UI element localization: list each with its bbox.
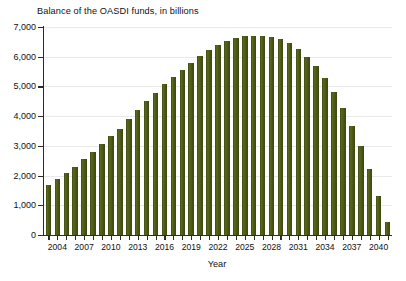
bar [349,126,355,235]
x-axis-tick [236,236,237,240]
bar [64,173,70,235]
bar [55,179,61,235]
bar [331,92,337,235]
bar [340,108,346,235]
x-axis-tick-label: 2013 [128,242,147,252]
x-axis-tick [361,236,362,240]
x-axis-tick [164,236,165,240]
bar [287,43,293,235]
x-axis-tick [111,236,112,240]
x-axis-tick-label: 2028 [262,242,281,252]
bar [304,57,310,235]
x-axis-tick [156,236,157,240]
bar [99,144,105,235]
x-axis-tick-label: 2007 [75,242,94,252]
bar [313,66,319,235]
x-axis-tick [325,236,326,240]
y-axis-tick-label: 5,000 [13,81,36,91]
x-axis-tick [138,236,139,240]
plot-area [44,27,392,235]
x-axis-tick-label: 2019 [182,242,201,252]
y-axis-tick [38,57,44,58]
bar [385,222,391,235]
x-axis-tick [343,236,344,240]
y-axis-tick-label: 4,000 [13,111,36,121]
x-axis-tick [370,236,371,240]
y-axis-tick-label: 1,000 [13,200,36,210]
chart-figure: Balance of the OASDI funds, in billions … [0,0,406,281]
x-axis-tick [182,236,183,240]
x-axis-tick-label: 2037 [342,242,361,252]
x-axis-tick [227,236,228,240]
x-axis-tick [316,236,317,240]
bar [117,129,123,235]
x-axis-title-label: Year [208,259,227,269]
bar [260,36,266,235]
y-axis-tick-label: 2,000 [13,171,36,181]
y-axis-tick [38,116,44,117]
x-axis-tick [280,236,281,240]
x-axis-tick [334,236,335,240]
bar [171,77,177,235]
bar [188,63,194,235]
bar [376,196,382,235]
x-axis-tick [57,236,58,240]
x-axis-tick-label: 2010 [101,242,120,252]
bar [197,56,203,235]
y-axis-tick [38,146,44,147]
x-axis-tick [352,236,353,240]
y-axis-tick-label: 0 [31,230,36,240]
x-axis-tick-label: 2025 [235,242,254,252]
x-axis-tick [66,236,67,240]
x-axis-tick [245,236,246,240]
bar [144,101,150,235]
y-axis-tick [38,176,44,177]
bar [206,50,212,235]
y-axis-tick [38,235,44,236]
bar [278,39,284,235]
y-axis-tick-label: 3,000 [13,141,36,151]
bar [358,146,364,235]
x-axis-tick [48,236,49,240]
bar [81,159,87,235]
x-axis-tick [129,236,130,240]
x-axis-tick [218,236,219,240]
x-axis-tick-label: 2004 [48,242,67,252]
x-axis-tick [173,236,174,240]
x-axis-tick [75,236,76,240]
x-axis-tick-label: 2016 [155,242,174,252]
x-axis-tick-label: 2031 [289,242,308,252]
x-axis-tick-label: 2040 [369,242,388,252]
x-axis-tick [254,236,255,240]
y-axis-tick-label: 7,000 [13,22,36,32]
y-axis-tick [38,86,44,87]
x-axis-tick-label: 2022 [208,242,227,252]
bar [322,78,328,235]
bar [90,152,96,235]
y-axis-tick-label: 6,000 [13,52,36,62]
x-axis-tick [191,236,192,240]
bar [162,84,168,235]
gridline [44,27,392,28]
x-axis-tick-label: 2034 [316,242,335,252]
chart-title: Balance of the OASDI funds, in billions [37,6,199,16]
x-axis-tick [209,236,210,240]
bar [46,185,52,235]
x-axis-tick [147,236,148,240]
x-axis-tick [307,236,308,240]
x-axis-tick [200,236,201,240]
x-axis-tick [263,236,264,240]
bar [224,41,230,235]
x-axis-title: Year [0,259,406,269]
bar [251,36,257,235]
bar [233,38,239,235]
bar [153,93,159,235]
x-axis-tick [120,236,121,240]
bar [269,37,275,235]
bar [135,110,141,235]
x-axis-tick [93,236,94,240]
y-axis-tick [38,27,44,28]
bar [242,36,248,235]
bar [72,167,78,235]
bar [367,169,373,235]
